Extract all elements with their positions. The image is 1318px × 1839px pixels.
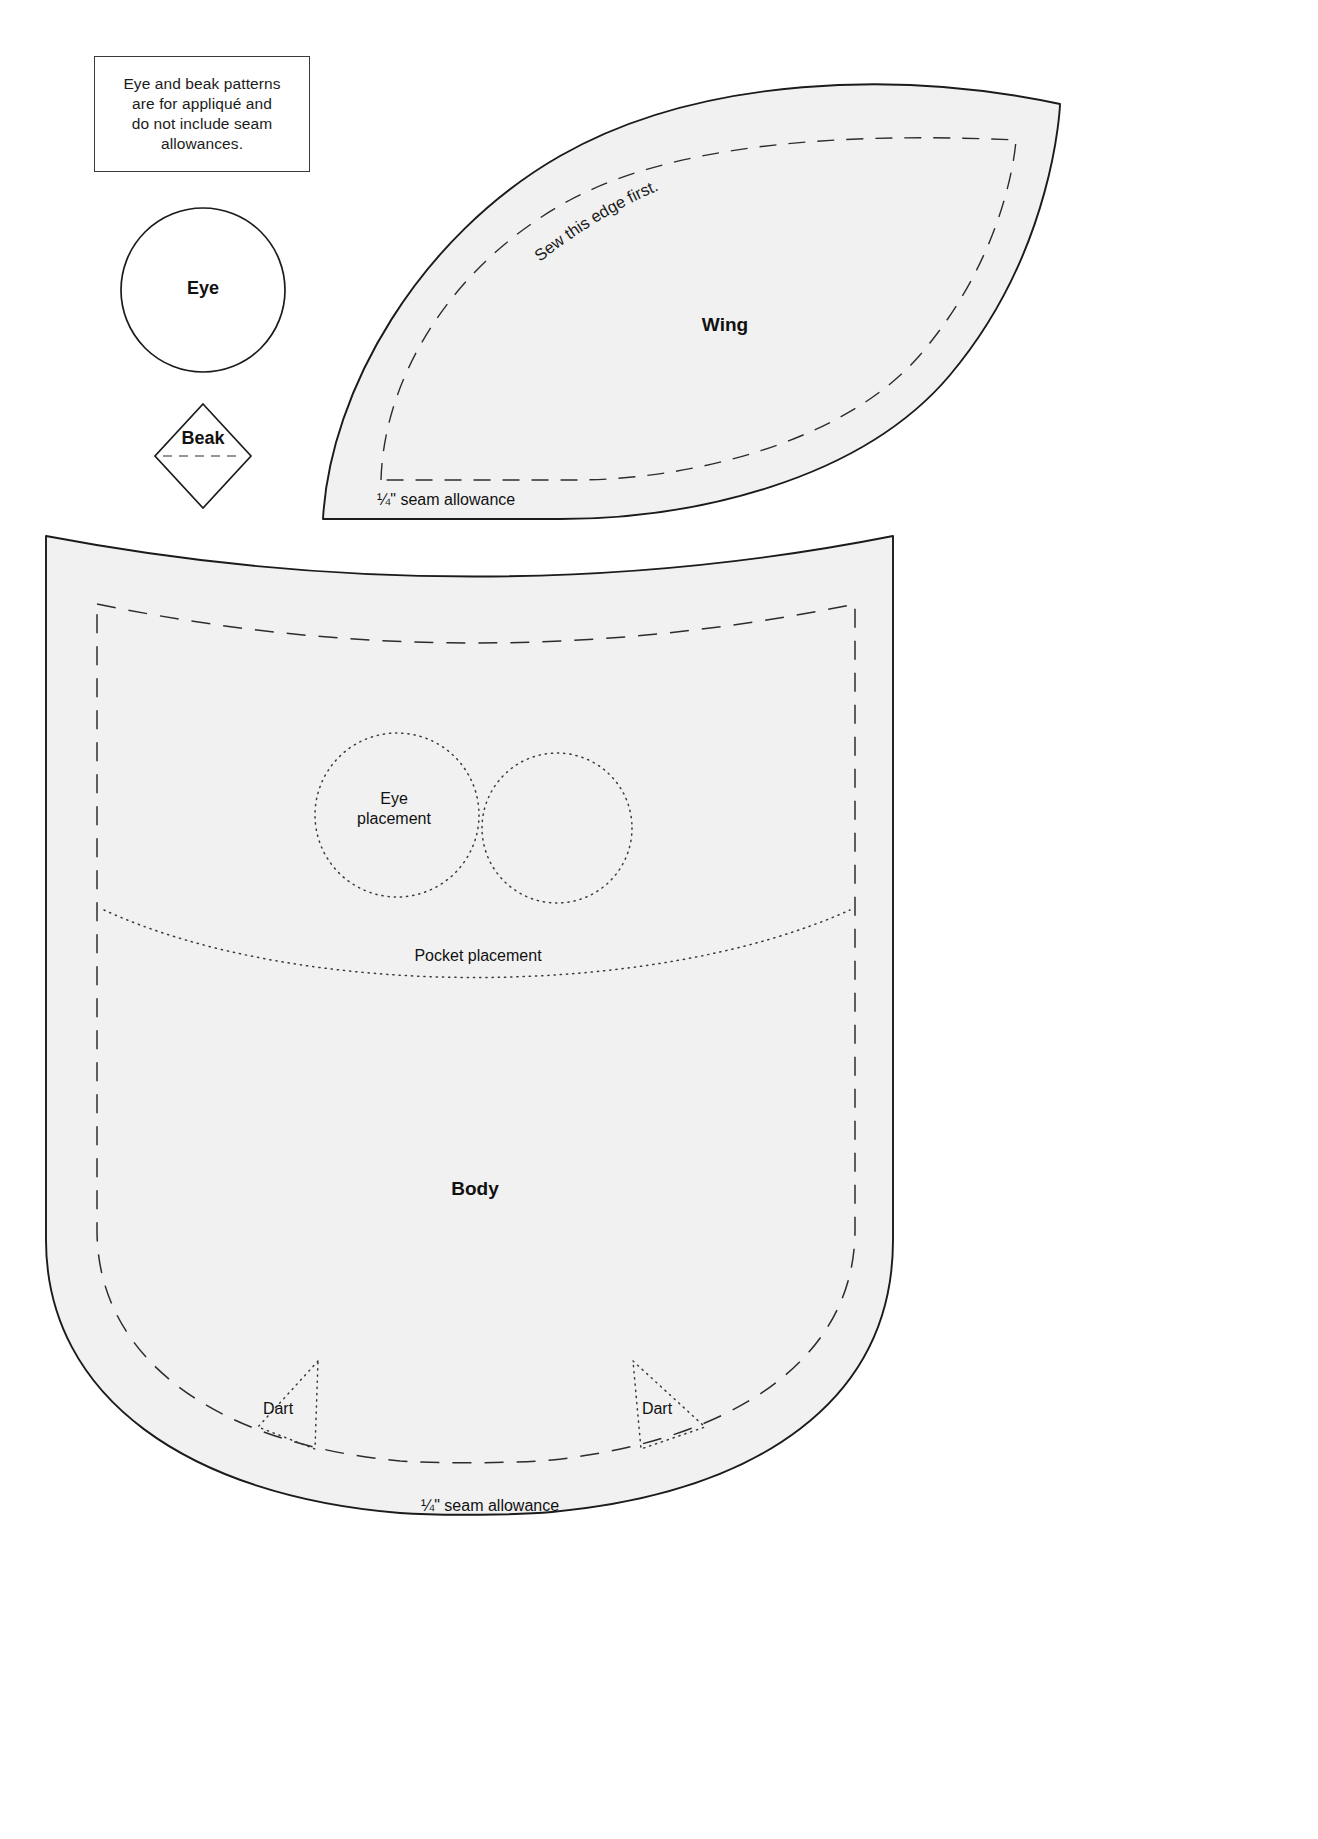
appliqué-note-text: Eye and beak patterns are for appliqué a… (117, 74, 286, 155)
pattern-drawing-layer: Sew this edge first. (0, 0, 1318, 1839)
wing-piece-label: Wing (650, 314, 800, 336)
pattern-sheet: Sew this edge first. Eye and beak patter… (0, 0, 1318, 1839)
dart-left-label: Dart (233, 1400, 323, 1418)
body-seam-allowance-label: ¼" seam allowance (330, 1497, 650, 1515)
beak-piece-label: Beak (153, 428, 253, 449)
dart-right-label: Dart (612, 1400, 702, 1418)
body-piece-label: Body (400, 1178, 550, 1200)
body-piece-outline (46, 536, 893, 1515)
eye-placement-label: Eye placement (324, 789, 464, 830)
pocket-placement-label: Pocket placement (368, 947, 588, 965)
wing-piece-outline (323, 84, 1060, 519)
wing-seam-allowance-label: ¼" seam allowance (305, 491, 605, 509)
appliqué-note-box: Eye and beak patterns are for appliqué a… (94, 56, 310, 172)
eye-piece-label: Eye (153, 278, 253, 299)
